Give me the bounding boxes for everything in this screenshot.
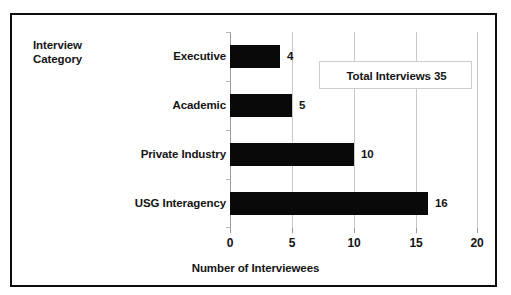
tick-15	[416, 228, 417, 233]
tick-5	[292, 228, 293, 233]
total-interviews-box: Total Interviews 35	[319, 61, 472, 89]
tick-20	[477, 228, 478, 233]
xtick-label-20: 20	[457, 236, 497, 250]
xtick-label-0: 0	[210, 236, 250, 250]
bar-value-private-industry: 10	[361, 143, 374, 166]
xtick-label-15: 15	[396, 236, 436, 250]
total-interviews-label: Total Interviews 35	[320, 62, 473, 90]
ytick-3	[226, 179, 231, 180]
bar-value-usg-interagency: 16	[435, 192, 448, 215]
xtick-label-10: 10	[334, 236, 374, 250]
bar-value-executive: 4	[287, 45, 293, 68]
ytick-bottom	[226, 227, 231, 228]
bar-executive	[230, 45, 280, 68]
x-axis-title: Number of Interviewees	[0, 262, 511, 274]
bar-private-industry	[230, 143, 354, 166]
chart-figure: Interview Category 4 5 10 16 Executive A…	[0, 0, 511, 295]
category-label-academic: Academic	[26, 94, 226, 117]
bar-academic	[230, 94, 292, 117]
gridline-20	[477, 32, 478, 228]
tick-10	[354, 228, 355, 233]
ytick-2	[226, 130, 231, 131]
bar-value-academic: 5	[299, 94, 305, 117]
bar-usg-interagency	[230, 192, 428, 215]
ytick-1	[226, 81, 231, 82]
xtick-label-5: 5	[272, 236, 312, 250]
ytick-top	[226, 32, 231, 33]
category-label-executive: Executive	[26, 45, 226, 68]
category-label-private-industry: Private Industry	[26, 143, 226, 166]
tick-0	[230, 228, 231, 233]
category-label-usg-interagency: USG Interagency	[26, 192, 226, 215]
